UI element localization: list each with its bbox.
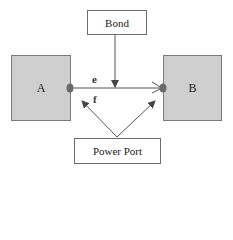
flow-label: f — [93, 93, 97, 105]
power-port-label: Power Port — [93, 145, 142, 157]
port-dot-a-icon — [67, 84, 74, 93]
power-port-box: Power Port — [74, 138, 161, 164]
effort-label: e — [92, 73, 97, 85]
port-dot-b-icon — [160, 84, 167, 93]
